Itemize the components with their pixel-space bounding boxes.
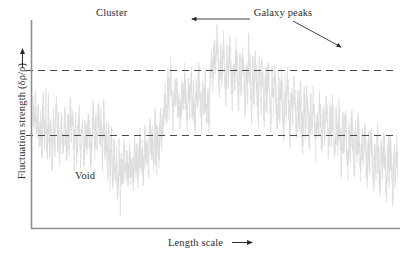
y-axis-label-wrapper: Fluctuation strength (δρ/ρ): [11, 41, 27, 201]
label-void: Void: [75, 170, 95, 182]
figure-container: Cluster Void Galaxy peaks Length scale F…: [0, 0, 418, 257]
plot-svg: [0, 0, 418, 257]
galaxy-peaks-arrow-diagonal: [293, 21, 341, 47]
data-trace: [33, 24, 398, 215]
label-galaxy-peaks: Galaxy peaks: [253, 7, 313, 19]
x-axis-label: Length scale: [168, 237, 223, 249]
label-cluster: Cluster: [96, 7, 127, 19]
y-axis-label: Fluctuation strength (δρ/ρ): [16, 63, 28, 179]
threshold-lines: [26, 71, 397, 136]
